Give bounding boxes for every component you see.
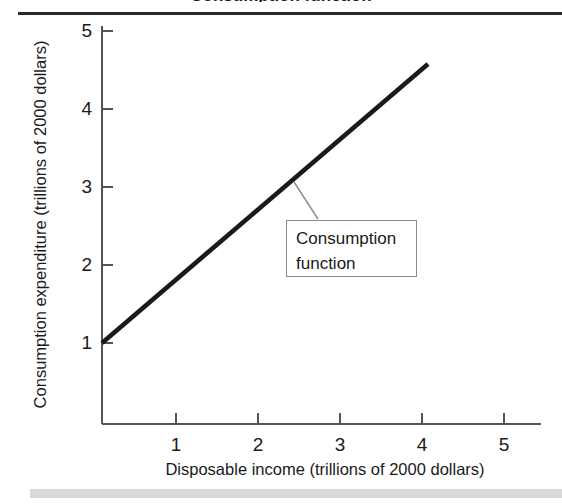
x-tick-label-2: 2 [245, 434, 271, 456]
y-tick-label-5: 5 [66, 20, 92, 42]
x-axis-ticks [176, 413, 504, 424]
annotation-text-line-2: function [296, 251, 416, 276]
annotation-callout-consumption-function: Consumption function [286, 220, 417, 277]
bottom-decorative-bar [30, 489, 562, 498]
y-tick-label-2: 2 [66, 254, 92, 276]
y-tick-label-3: 3 [66, 176, 92, 198]
plot-area [0, 0, 562, 504]
x-tick-label-1: 1 [163, 434, 189, 456]
consumption-function-line [102, 64, 428, 343]
x-tick-label-4: 4 [409, 434, 435, 456]
annotation-text-line-1: Consumption [296, 226, 416, 251]
figure-consumption-function: Consumption function 5 4 3 2 [0, 0, 562, 504]
annotation-leader-line [294, 182, 318, 219]
y-tick-label-1: 1 [66, 332, 92, 354]
y-axis-ticks [102, 31, 113, 343]
x-tick-label-5: 5 [491, 434, 517, 456]
y-tick-label-4: 4 [66, 98, 92, 120]
x-tick-label-3: 3 [327, 434, 353, 456]
x-axis-label: Disposable income (trillions of 2000 dol… [90, 460, 560, 479]
y-axis-label: Consumption expenditure (trillions of 20… [31, 15, 50, 435]
